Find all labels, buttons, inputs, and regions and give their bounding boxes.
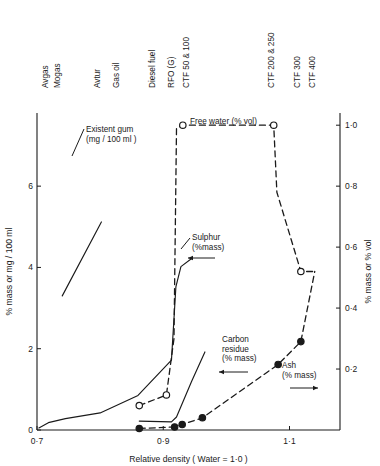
chart-svg: AvgasMogasAvturGas oilDiesel fuelRFO (G)… xyxy=(0,0,380,466)
y-left-tick-label: 0 xyxy=(28,425,33,435)
top-label: RFO (G) xyxy=(167,56,176,88)
annotation-line: (% mass) xyxy=(282,371,317,380)
x-tick-label: 0·7 xyxy=(31,436,44,446)
top-label: CTF 200 & 250 xyxy=(267,32,276,88)
annotation-line: (%mass) xyxy=(192,243,225,252)
top-label: Avtur xyxy=(93,69,102,88)
y-left-tick-label: 4 xyxy=(28,262,33,272)
top-label: Mogas xyxy=(53,63,62,88)
top-label: CTF 300 xyxy=(293,56,302,88)
y-left-tick-label: 6 xyxy=(28,181,33,191)
data-point-filled xyxy=(199,415,205,421)
y-left-axis-label: % mass or mg / 100 ml xyxy=(4,227,14,315)
annotation-existent-gum: Existent gum(mg / 100 ml ) xyxy=(86,125,137,144)
y-right-tick-label: 0·4 xyxy=(345,303,358,313)
y-right-tick-label: 1·0 xyxy=(345,120,358,130)
data-point-open xyxy=(298,268,304,274)
annotation-line: residue xyxy=(222,345,249,354)
annotation-line: (% mass) xyxy=(222,354,257,363)
data-point-filled xyxy=(136,425,142,431)
data-point-filled xyxy=(298,338,304,344)
top-label: Diesel fuel xyxy=(148,50,157,88)
top-label: CTF 400 xyxy=(308,56,317,88)
annotation-line: Existent gum xyxy=(86,125,134,134)
data-point-open xyxy=(163,392,169,398)
annotation-line: (mg / 100 ml ) xyxy=(86,135,137,144)
chart-figure: AvgasMogasAvturGas oilDiesel fuelRFO (G)… xyxy=(0,0,380,466)
data-point-open xyxy=(136,402,142,408)
y-right-tick-label: 0·8 xyxy=(345,181,358,191)
annotation-line: Ash xyxy=(282,361,297,370)
top-label: Avgas xyxy=(41,65,50,88)
x-tick-label: 1·1 xyxy=(283,436,296,446)
top-label: CTF 50 & 100 xyxy=(182,37,191,88)
annotation-line: Carbon xyxy=(222,335,249,344)
annotation-sulphur: Sulphur(%mass) xyxy=(192,233,225,252)
top-label: Gas oil xyxy=(112,62,121,88)
data-point-filled xyxy=(275,361,281,367)
annotation-free-water: Free water (% vol) xyxy=(190,117,257,126)
y-left-tick-label: 2 xyxy=(28,344,33,354)
data-point-open xyxy=(271,122,277,128)
y-right-axis-label: % mass or % vol xyxy=(363,239,373,303)
y-right-tick-label: 0·6 xyxy=(345,242,358,252)
data-point-filled xyxy=(179,421,185,427)
data-point-filled xyxy=(171,424,177,430)
x-axis-label: Relative density ( Water = 1·0 ) xyxy=(129,454,248,464)
data-point-open xyxy=(180,122,186,128)
y-right-tick-label: 0·2 xyxy=(345,364,358,374)
annotation-line: Sulphur xyxy=(192,233,220,242)
annotation-line: Free water (% vol) xyxy=(190,117,257,126)
x-tick-label: 0·9 xyxy=(157,436,170,446)
